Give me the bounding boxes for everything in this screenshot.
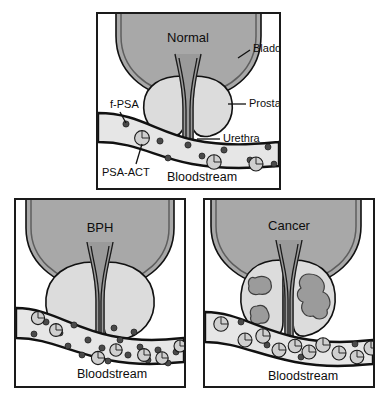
psaact-particle bbox=[316, 338, 330, 352]
panel-bph: BPH Bloodstream bbox=[14, 198, 186, 388]
fpsa-particle bbox=[238, 319, 244, 325]
bloodstream-label-normal: Bloodstream bbox=[167, 170, 237, 184]
psaact-particle bbox=[214, 317, 228, 331]
fpsa-particle bbox=[271, 161, 277, 167]
callout-prostate-label: Prostate bbox=[249, 97, 279, 109]
bloodstream-label-bph: Bloodstream bbox=[77, 367, 147, 381]
psaact-particle bbox=[110, 344, 122, 356]
fpsa-particle bbox=[125, 352, 131, 358]
psaact-particle bbox=[174, 340, 184, 352]
fpsa-particle bbox=[131, 329, 137, 335]
psaact-particle bbox=[332, 346, 346, 360]
fpsa-particle bbox=[199, 153, 205, 159]
bloodstream-label-cancer: Bloodstream bbox=[268, 369, 338, 383]
panel-normal-title: Normal bbox=[167, 30, 209, 45]
panel-bph-art: BPH Bloodstream bbox=[16, 200, 184, 386]
tumor-left-upper bbox=[248, 276, 271, 294]
fpsa-particle bbox=[111, 325, 117, 331]
fpsa-particle bbox=[157, 138, 163, 144]
callout-psaact-label: PSA-ACT bbox=[102, 166, 150, 178]
psaact-particle bbox=[302, 345, 316, 359]
psaact-particle bbox=[364, 341, 373, 355]
psa-diagram-figure: Normal Bladder Prostate Urethra f-PSA PS… bbox=[0, 0, 390, 400]
psaact-particle bbox=[156, 352, 168, 364]
psaact-particle bbox=[238, 333, 252, 347]
panel-cancer-art: Cancer Bloodstream bbox=[205, 200, 373, 386]
psaact-particle bbox=[272, 343, 286, 357]
psaact-particle bbox=[256, 329, 270, 343]
panel-normal: Normal Bladder Prostate Urethra f-PSA PS… bbox=[96, 12, 281, 190]
fpsa-particle bbox=[185, 142, 191, 148]
fpsa-particle bbox=[79, 352, 85, 358]
callout-urethra-label: Urethra bbox=[223, 132, 261, 144]
fpsa-particle bbox=[265, 144, 271, 150]
tumor-left-lower bbox=[250, 305, 269, 324]
callout-bladder-label: Bladder bbox=[253, 42, 279, 54]
psaact-particle bbox=[50, 324, 63, 337]
fpsa-particle bbox=[71, 322, 77, 328]
fpsa-particle bbox=[105, 358, 111, 364]
panel-cancer: Cancer Bloodstream bbox=[203, 198, 375, 388]
psaact-particle bbox=[135, 131, 150, 146]
fpsa-particle bbox=[117, 337, 123, 343]
psaact-particle bbox=[350, 350, 364, 364]
psaact-particle bbox=[249, 157, 263, 171]
fpsa-particle bbox=[31, 331, 37, 337]
panel-cancer-title: Cancer bbox=[268, 218, 311, 233]
psaact-particle bbox=[91, 351, 104, 364]
fpsa-particle bbox=[99, 345, 105, 351]
psaact-particle bbox=[207, 155, 221, 169]
fpsa-particle bbox=[352, 341, 358, 347]
psaact-particle bbox=[138, 349, 151, 362]
psaact-particle bbox=[31, 311, 44, 324]
fpsa-particle bbox=[221, 147, 227, 153]
fpsa-particle bbox=[65, 343, 71, 349]
panel-normal-art: Normal Bladder Prostate Urethra f-PSA PS… bbox=[98, 14, 279, 188]
fpsa-particle bbox=[85, 337, 91, 343]
panel-bph-title: BPH bbox=[87, 220, 114, 235]
psaact-particle bbox=[288, 339, 302, 353]
callout-fpsa-label: f-PSA bbox=[110, 98, 139, 110]
fpsa-particle bbox=[165, 155, 171, 161]
